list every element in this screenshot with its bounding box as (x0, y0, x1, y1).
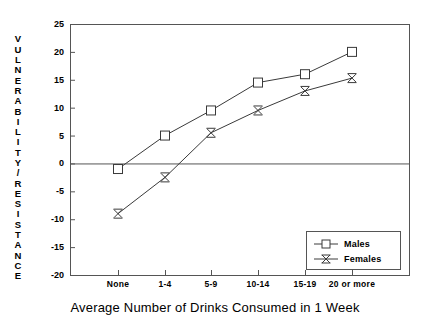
x-axis-tick-label: 1-4 (158, 279, 171, 289)
legend-marker-square-icon (313, 237, 339, 251)
x-axis-tick-labels: None1-45-910-1415-1920 or more (0, 279, 430, 295)
legend-item-females: Females (313, 251, 400, 266)
chart-legend: Males Females (306, 231, 401, 270)
legend-label-males: Males (344, 239, 370, 249)
marker-square-males (114, 165, 123, 174)
marker-x-females (161, 173, 170, 182)
marker-square-males (254, 78, 263, 87)
x-axis-tick-label: 20 or more (329, 279, 375, 289)
chart-container: VULNERABILITY/RESISTANCE 2520151050-5-10… (0, 0, 430, 331)
marker-x-females (348, 74, 357, 83)
x-axis-tick-label: None (107, 279, 129, 289)
marker-square-males (301, 70, 310, 79)
series-line-males (118, 52, 352, 169)
x-axis-title: Average Number of Drinks Consumed in 1 W… (0, 300, 430, 315)
marker-square-males (348, 47, 357, 56)
legend-label-females: Females (344, 254, 381, 264)
marker-x-females (254, 106, 263, 115)
marker-square-males (161, 131, 170, 140)
legend-item-males: Males (313, 236, 400, 251)
x-axis-tick-label: 5-9 (204, 279, 217, 289)
x-axis-tick-label: 10-14 (246, 279, 269, 289)
marker-x-females (114, 209, 123, 218)
legend-marker-x-icon (313, 252, 339, 266)
marker-x-females (301, 86, 310, 95)
series-line-females (118, 78, 352, 214)
marker-x-females (207, 128, 216, 137)
x-axis-tick-label: 15-19 (293, 279, 316, 289)
marker-square-males (207, 106, 216, 115)
